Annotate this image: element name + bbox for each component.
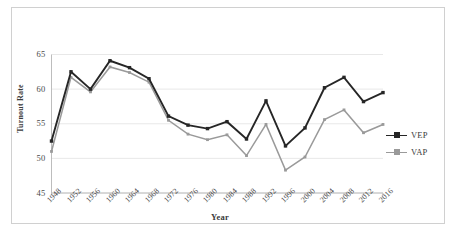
data-point (303, 126, 306, 129)
data-point (304, 156, 307, 159)
y-axis-title: Turnout Rate (16, 69, 25, 149)
y-tick-label: 60 (26, 84, 46, 94)
turnout-rate-line-chart: 6560555045 19481952195619601964196819721… (0, 0, 457, 237)
data-point (362, 131, 365, 134)
data-point (362, 100, 365, 103)
data-point (245, 154, 248, 157)
legend-swatch-vap (386, 148, 407, 157)
data-point (382, 123, 385, 126)
data-point (343, 109, 346, 112)
data-point (89, 87, 92, 90)
legend-label-vep: VEP (411, 130, 428, 140)
data-point (147, 77, 150, 80)
data-point (264, 99, 267, 102)
legend-item-vep: VEP (386, 128, 452, 142)
y-tick-label: 55 (26, 118, 46, 128)
legend-label-vap: VAP (411, 147, 428, 157)
data-point (245, 137, 248, 140)
data-point (323, 118, 326, 121)
data-point (323, 86, 326, 89)
chart-legend: VEP VAP (386, 128, 452, 162)
data-series (50, 59, 385, 172)
data-point (167, 114, 170, 117)
y-tick-label: 45 (26, 188, 46, 198)
data-point (284, 144, 287, 147)
data-point (265, 123, 268, 126)
data-point (342, 76, 345, 79)
data-point (50, 150, 53, 153)
data-point (50, 139, 53, 142)
data-point (381, 91, 384, 94)
data-point (225, 120, 228, 123)
series-line-vep (52, 61, 384, 146)
y-tick-label: 50 (26, 153, 46, 163)
data-point (206, 127, 209, 130)
data-point (109, 66, 112, 69)
data-point (128, 71, 131, 74)
legend-swatch-vep (386, 131, 407, 140)
data-point (226, 133, 229, 136)
data-point (108, 59, 111, 62)
data-point (186, 123, 189, 126)
data-point (167, 119, 170, 122)
data-point (284, 169, 287, 172)
data-point (206, 138, 209, 141)
legend-item-vap: VAP (386, 145, 452, 159)
data-point (89, 90, 92, 93)
x-axis-title: Year (180, 212, 260, 222)
gridlines (52, 55, 384, 194)
y-tick-label: 65 (26, 49, 46, 59)
data-point (69, 70, 72, 73)
data-point (187, 133, 190, 136)
data-point (128, 66, 131, 69)
